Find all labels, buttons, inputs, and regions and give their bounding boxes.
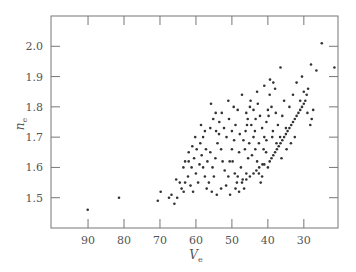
data-point [187, 160, 190, 163]
data-point [256, 160, 259, 163]
data-point [306, 112, 309, 115]
data-point [290, 142, 293, 145]
data-point [281, 115, 284, 118]
data-point [249, 100, 252, 103]
data-point [315, 69, 318, 72]
data-point [189, 184, 192, 187]
data-point [303, 103, 306, 106]
data-point [285, 127, 288, 130]
data-point [234, 124, 237, 127]
data-point [176, 196, 179, 199]
data-point [238, 151, 241, 154]
data-point [234, 172, 237, 175]
y-tick-label: 1.8 [26, 101, 44, 114]
data-point [286, 130, 289, 133]
data-point [200, 124, 203, 127]
data-point [204, 130, 207, 133]
data-point [182, 190, 185, 193]
data-point [193, 157, 196, 160]
data-point [294, 136, 297, 139]
data-point [272, 154, 275, 157]
data-point [254, 130, 257, 133]
data-point [231, 160, 234, 163]
data-point [168, 196, 171, 199]
data-point [261, 175, 264, 178]
data-point [249, 106, 252, 109]
data-point [86, 209, 89, 212]
data-point [263, 136, 266, 139]
data-point [267, 109, 270, 112]
data-point [179, 181, 182, 184]
data-point [215, 130, 218, 133]
data-point [295, 115, 298, 118]
data-point [270, 106, 273, 109]
data-point [246, 118, 249, 121]
data-point [292, 93, 295, 96]
data-point [256, 90, 259, 93]
data-point [206, 160, 209, 163]
data-point [249, 175, 252, 178]
data-point [212, 118, 215, 121]
y-axis-ticks: 1.51.61.71.81.92.0 [26, 40, 339, 204]
data-point [200, 154, 203, 157]
data-point [301, 75, 304, 78]
data-point [258, 172, 261, 175]
data-point [175, 178, 178, 181]
data-point [204, 175, 207, 178]
x-tick-label: 90 [81, 234, 95, 247]
data-point [221, 160, 224, 163]
data-point [275, 142, 278, 145]
data-point [288, 127, 291, 130]
data-point [197, 181, 200, 184]
data-point [310, 63, 313, 66]
data-point [265, 151, 268, 154]
data-point [236, 109, 239, 112]
data-point [263, 84, 266, 87]
data-point [208, 181, 211, 184]
data-point [307, 87, 310, 90]
y-axis-label: ne [13, 118, 29, 131]
data-point [209, 127, 212, 130]
data-point [268, 160, 271, 163]
data-point [321, 42, 324, 45]
data-point [272, 81, 275, 84]
data-point [245, 178, 248, 181]
data-point [305, 93, 308, 96]
data-point [184, 181, 187, 184]
data-point [272, 130, 275, 133]
data-point [184, 160, 187, 163]
data-point [157, 199, 160, 202]
data-point [259, 115, 262, 118]
data-point [275, 112, 278, 115]
data-point [244, 148, 247, 151]
data-point [265, 121, 268, 124]
data-point [190, 166, 193, 169]
data-point [216, 142, 219, 145]
data-point [225, 184, 228, 187]
data-point [211, 190, 214, 193]
data-point [221, 112, 224, 115]
data-point [268, 93, 271, 96]
data-point [231, 148, 234, 151]
data-point [228, 118, 231, 121]
data-point [205, 187, 208, 190]
data-point [241, 93, 244, 96]
x-axis-label: Ve [189, 248, 203, 264]
data-point [246, 124, 249, 127]
data-point [303, 90, 306, 93]
data-point [283, 100, 286, 103]
data-point [236, 175, 239, 178]
data-point [202, 136, 205, 139]
data-point [187, 175, 190, 178]
data-points [86, 42, 335, 211]
data-point [279, 142, 282, 145]
data-point [299, 109, 302, 112]
data-point [192, 190, 195, 193]
data-point [228, 160, 231, 163]
data-point [216, 193, 219, 196]
data-point [276, 148, 279, 151]
data-point [234, 187, 237, 190]
data-point [191, 145, 194, 148]
x-tick-label: 50 [225, 234, 239, 247]
data-point [254, 118, 257, 121]
